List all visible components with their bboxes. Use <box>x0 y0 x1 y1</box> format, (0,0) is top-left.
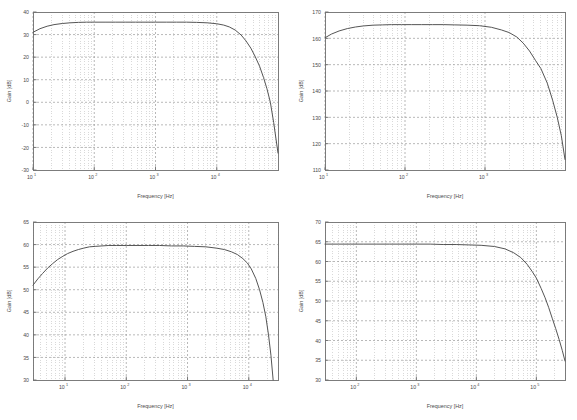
y-tick-label: 65 <box>23 219 29 225</box>
x-tick-label-exponent: 2 <box>406 173 408 177</box>
y-tick-label: -20 <box>22 145 30 151</box>
x-tick-label-mantissa: 10 <box>120 384 126 390</box>
x-tick-label: 104 <box>470 383 479 390</box>
y-axis-label: Gain [dB] <box>298 79 304 102</box>
x-tick-label: 103 <box>410 383 419 390</box>
x-tick-label-exponent: 3 <box>486 173 488 177</box>
x-tick-label-exponent: 5 <box>537 383 539 387</box>
x-tick-label-mantissa: 10 <box>243 384 249 390</box>
x-tick-label: 101 <box>27 173 36 180</box>
x-axis-label: Frequency [Hz] <box>427 403 464 409</box>
x-tick-label-exponent: 4 <box>218 173 220 177</box>
x-tick-label-exponent: 2 <box>95 173 97 177</box>
x-tick-label: 103 <box>181 383 190 390</box>
y-tick-label: 130 <box>312 115 321 121</box>
x-tick-label: 102 <box>88 173 97 180</box>
y-tick-label: 35 <box>315 357 321 363</box>
chart-panel-top-left: 403020100-10-20-30101102103104Frequency … <box>0 0 289 210</box>
y-tick-label: 70 <box>315 219 321 225</box>
y-tick-label: 170 <box>312 9 321 15</box>
x-tick-label-exponent: 1 <box>66 383 68 387</box>
x-tick-label: 101 <box>59 383 68 390</box>
x-tick-label: 103 <box>149 173 158 180</box>
y-tick-label: 40 <box>23 9 29 15</box>
x-tick-label-mantissa: 10 <box>59 384 65 390</box>
x-tick-label: 104 <box>243 383 252 390</box>
x-tick-label-mantissa: 10 <box>350 384 356 390</box>
x-tick-label-mantissa: 10 <box>470 384 476 390</box>
chart-panel-bottom-left: 6560555045403530101102103104Frequency [H… <box>0 210 289 420</box>
y-tick-label: 55 <box>23 264 29 270</box>
x-tick-label-exponent: 3 <box>188 383 190 387</box>
y-tick-label: 30 <box>23 32 29 38</box>
x-tick-label-exponent: 2 <box>357 383 359 387</box>
y-tick-label: 110 <box>313 167 321 173</box>
x-tick-label-mantissa: 10 <box>149 174 155 180</box>
y-tick-label: 40 <box>315 338 321 344</box>
x-axis-label: Frequency [Hz] <box>427 193 464 199</box>
bode-chart-svg: 6560555045403530101102103104Frequency [H… <box>0 210 289 420</box>
x-tick-label-mantissa: 10 <box>27 174 33 180</box>
x-tick-label: 101 <box>319 173 328 180</box>
x-tick-label-exponent: 4 <box>250 383 252 387</box>
y-axis-label: Gain [dB] <box>6 79 12 102</box>
x-tick-label-exponent: 4 <box>477 383 479 387</box>
y-tick-label: 45 <box>315 318 321 324</box>
bode-chart-svg: 706560555045403530102103104105Frequency … <box>289 210 577 420</box>
y-tick-label: 65 <box>315 239 321 245</box>
x-tick-label-mantissa: 10 <box>319 174 325 180</box>
y-tick-label: 10 <box>23 77 29 83</box>
y-tick-label: 0 <box>26 99 29 105</box>
y-axis-label: Gain [dB] <box>6 289 12 312</box>
y-tick-label: 140 <box>312 88 321 94</box>
y-tick-label: -30 <box>22 167 30 173</box>
x-tick-label-exponent: 3 <box>417 383 419 387</box>
y-tick-label: 30 <box>315 377 321 383</box>
y-tick-label: 120 <box>312 141 321 147</box>
y-tick-label: 40 <box>23 332 29 338</box>
x-tick-label-exponent: 2 <box>127 383 129 387</box>
y-tick-label: 50 <box>315 298 321 304</box>
y-tick-label: 55 <box>315 278 321 284</box>
x-tick-label-mantissa: 10 <box>530 384 536 390</box>
chart-panel-top-right: 170160150140130120110101102103Frequency … <box>289 0 577 210</box>
y-tick-label: 160 <box>312 36 321 42</box>
x-tick-label: 105 <box>530 383 539 390</box>
y-axis-label: Gain [dB] <box>298 289 304 312</box>
y-tick-label: -10 <box>22 122 30 128</box>
x-tick-label-exponent: 3 <box>156 173 158 177</box>
x-tick-label-mantissa: 10 <box>181 384 187 390</box>
y-tick-label: 35 <box>23 355 29 361</box>
y-tick-label: 150 <box>312 62 321 68</box>
y-tick-label: 45 <box>23 309 29 315</box>
x-tick-label-mantissa: 10 <box>211 174 217 180</box>
bode-chart-svg: 170160150140130120110101102103Frequency … <box>289 0 577 210</box>
x-tick-label: 102 <box>350 383 359 390</box>
x-tick-label-exponent: 1 <box>34 173 36 177</box>
x-axis-label: Frequency [Hz] <box>137 193 174 199</box>
x-tick-label-mantissa: 10 <box>399 174 405 180</box>
bode-chart-svg: 403020100-10-20-30101102103104Frequency … <box>0 0 289 210</box>
x-tick-label: 104 <box>211 173 220 180</box>
x-tick-label-mantissa: 10 <box>88 174 94 180</box>
y-tick-label: 20 <box>23 54 29 60</box>
x-tick-label-exponent: 1 <box>326 173 328 177</box>
x-tick-label: 102 <box>399 173 408 180</box>
chart-panel-bottom-right: 706560555045403530102103104105Frequency … <box>289 210 577 420</box>
x-tick-label: 103 <box>479 173 488 180</box>
y-tick-label: 60 <box>315 259 321 265</box>
x-tick-label-mantissa: 10 <box>410 384 416 390</box>
y-tick-label: 50 <box>23 287 29 293</box>
bode-plot-figure: 403020100-10-20-30101102103104Frequency … <box>0 0 577 420</box>
y-tick-label: 60 <box>23 242 29 248</box>
x-axis-label: Frequency [Hz] <box>137 403 174 409</box>
y-tick-label: 30 <box>23 377 29 383</box>
x-tick-label: 102 <box>120 383 129 390</box>
x-tick-label-mantissa: 10 <box>479 174 485 180</box>
